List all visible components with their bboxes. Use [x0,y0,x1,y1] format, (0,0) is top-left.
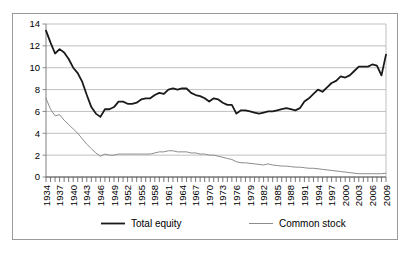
x-tick-label: 2006 [367,185,378,206]
x-tick-label: 1937 [54,185,65,206]
y-tick-label: 6 [35,106,40,117]
x-tick-label: 1958 [149,185,160,206]
x-tick-label: 1973 [217,185,228,206]
y-axis-tick-labels: 02468101214 [29,18,40,182]
plot-area: 02468101214 1934193719401943194619491952… [13,14,399,241]
x-tick-label: 1946 [95,185,106,206]
y-tick-label: 12 [29,40,40,51]
y-tick-label: 10 [29,62,40,73]
series-line-common-stock [46,98,386,173]
x-tick-label: 2000 [340,185,351,206]
y-tick-label: 2 [35,150,40,161]
x-tick-label: 1988 [285,185,296,206]
x-tick-label: 1955 [136,185,147,206]
x-tick-label: 1949 [109,185,120,206]
x-tick-label: 1934 [41,185,52,206]
x-tick-label: 1982 [258,185,269,206]
y-tick-label: 0 [35,171,40,182]
x-tick-label: 1994 [313,185,324,206]
series-line-total-equity [46,31,386,117]
chart-figure: 02468101214 1934193719401943194619491952… [12,13,398,240]
x-axis-ticks [46,177,386,182]
x-tick-label: 2009 [381,185,392,206]
data-series-lines [46,31,386,174]
y-tick-label: 4 [35,128,40,139]
x-tick-label: 1979 [245,185,256,206]
x-tick-label: 1943 [81,185,92,206]
chart-legend: Total equityCommon stock [101,218,347,229]
x-axis-tick-labels: 1934193719401943194619491952195519581961… [41,185,392,206]
x-tick-label: 1997 [326,185,337,206]
y-axis-line [43,24,47,177]
x-tick-label: 1961 [163,185,174,206]
x-tick-label: 1952 [122,185,133,206]
x-tick-label: 1967 [190,185,201,206]
y-tick-label: 14 [29,18,40,29]
y-tick-label: 8 [35,84,40,95]
x-tick-label: 1991 [299,185,310,206]
x-tick-label: 1964 [177,185,188,206]
legend-label-total-equity: Total equity [131,218,182,229]
x-tick-label: 1940 [68,185,79,206]
x-tick-label: 1976 [231,185,242,206]
x-tick-label: 1970 [204,185,215,206]
x-tick-label: 1985 [272,185,283,206]
legend-label-common-stock: Common stock [279,218,347,229]
x-tick-label: 2003 [353,185,364,206]
line-chart-svg: 02468101214 1934193719401943194619491952… [13,14,399,241]
